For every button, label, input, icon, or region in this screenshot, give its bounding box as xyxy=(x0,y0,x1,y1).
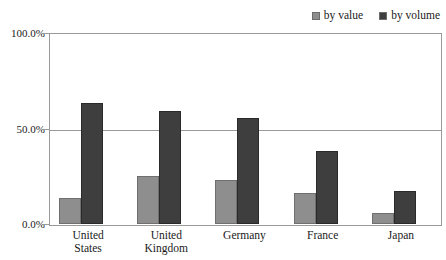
bar-group xyxy=(362,33,440,224)
bar-group xyxy=(205,33,283,224)
clipped-caption-text xyxy=(0,0,446,3)
x-axis-label: Germany xyxy=(205,229,283,242)
bar-by-value[interactable] xyxy=(372,213,394,224)
bar-by-value[interactable] xyxy=(215,180,237,224)
legend-label-by-value: by value xyxy=(324,10,363,22)
bars-layer xyxy=(49,33,440,224)
bar-by-volume[interactable] xyxy=(81,103,103,224)
bar-by-value[interactable] xyxy=(137,176,159,224)
legend-entry-by-volume[interactable]: by volume xyxy=(379,10,440,22)
y-axis-tick-label-0: 0.0% xyxy=(22,219,45,230)
bar-group xyxy=(127,33,205,224)
x-axis-label: Japan xyxy=(362,229,440,242)
legend-label-by-volume: by volume xyxy=(391,10,440,22)
x-axis-label: United States xyxy=(49,229,127,255)
bar-group xyxy=(284,33,362,224)
bar-by-volume[interactable] xyxy=(394,191,416,224)
x-axis-labels: United StatesUnited KingdomGermanyFrance… xyxy=(49,229,440,259)
bar-by-volume[interactable] xyxy=(237,118,259,224)
y-axis-tick-label-100: 100.0% xyxy=(11,28,45,39)
bar-chart-figure: by value by volume 100.0% 50.0% 0.0% Uni… xyxy=(0,0,446,260)
legend-swatch-by-volume-icon xyxy=(379,12,387,20)
bar-by-volume[interactable] xyxy=(316,151,338,224)
bar-group xyxy=(49,33,127,224)
legend-swatch-by-value-icon xyxy=(312,12,320,20)
x-axis-label: United Kingdom xyxy=(127,229,205,255)
bar-by-value[interactable] xyxy=(59,198,81,224)
y-axis-tick-label-50: 50.0% xyxy=(17,124,45,135)
legend-entry-by-value[interactable]: by value xyxy=(312,10,363,22)
bar-by-value[interactable] xyxy=(294,193,316,224)
x-axis-label: France xyxy=(284,229,362,242)
bar-by-volume[interactable] xyxy=(159,111,181,224)
chart-legend: by value by volume xyxy=(312,10,440,22)
